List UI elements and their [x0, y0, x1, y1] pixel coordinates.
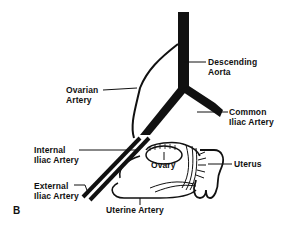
label-common-iliac-artery: Common Iliac Artery: [229, 107, 274, 127]
descending-aorta-vessel: [178, 12, 189, 92]
label-uterine-artery: Uterine Artery: [106, 205, 164, 215]
panel-label: B: [13, 205, 20, 216]
label-external-iliac-line1: External: [34, 181, 79, 191]
external-iliac-vessel: [90, 138, 149, 200]
label-common-iliac-line2: Iliac Artery: [229, 117, 274, 127]
label-ovary: Ovary: [151, 160, 176, 170]
label-external-iliac-artery: External Iliac Artery: [34, 181, 79, 201]
label-descending-aorta-line1: Descending: [208, 57, 257, 67]
label-internal-iliac-line1: Internal: [34, 145, 79, 155]
label-ovarian-artery-line1: Ovarian: [66, 85, 98, 95]
label-uterus: Uterus: [234, 159, 262, 169]
left-common-iliac-vessel: [140, 88, 189, 135]
internal-iliac-vessel: [83, 138, 140, 197]
uterus-shape: [194, 150, 223, 198]
label-internal-iliac-artery: Internal Iliac Artery: [34, 145, 79, 165]
label-descending-aorta-line2: Aorta: [208, 67, 257, 77]
label-ovarian-artery: Ovarian Artery: [66, 85, 98, 105]
label-external-iliac-line2: Iliac Artery: [34, 191, 79, 201]
label-common-iliac-line1: Common: [229, 107, 274, 117]
label-internal-iliac-line2: Iliac Artery: [34, 155, 79, 165]
leader-ovarian-artery: [103, 88, 137, 90]
label-ovarian-artery-line2: Artery: [66, 95, 98, 105]
label-descending-aorta: Descending Aorta: [208, 57, 257, 77]
